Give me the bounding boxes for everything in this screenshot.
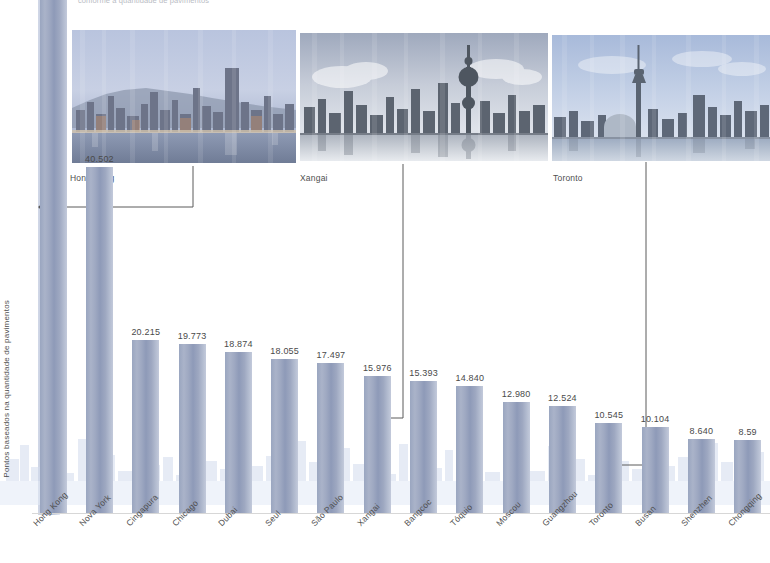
bar-fill xyxy=(410,381,437,513)
bar-chart: Pontos baseados na quantidade de pavimen… xyxy=(0,0,770,563)
bar-busan: 10.104 xyxy=(642,427,669,513)
bar-fill xyxy=(40,0,67,513)
bar-t-quio: 14.840 xyxy=(456,386,483,513)
bar-fill xyxy=(317,363,344,513)
y-axis-label: Pontos baseados na quantidade de pavimen… xyxy=(2,300,11,478)
bar-value-label: 12.980 xyxy=(502,389,531,399)
bar-value-label: 15.976 xyxy=(363,363,392,373)
bar-fill xyxy=(179,344,206,513)
bar-value-label: 8.59 xyxy=(738,427,756,437)
bar-dubai: 18.874 xyxy=(225,352,252,513)
bar-value-label: 40.502 xyxy=(85,154,114,164)
bar-fill xyxy=(456,386,483,513)
bar-fill xyxy=(642,427,669,513)
bar-value-label: 12.524 xyxy=(548,393,577,403)
bar-fill xyxy=(503,402,530,513)
bar-nova-york: 40.502 xyxy=(86,167,113,513)
bar-value-label: 17.497 xyxy=(317,350,346,360)
infographic-canvas: conforme a quantidade de pavimentos xyxy=(0,0,770,563)
bar-fill xyxy=(271,359,298,513)
bar-fill xyxy=(364,376,391,513)
x-tick-seul: Seul xyxy=(263,508,283,528)
bar-cingapura: 20.215 xyxy=(132,340,159,513)
bar-value-label: 8.640 xyxy=(690,426,714,436)
bar-s-o-paulo: 17.497 xyxy=(317,363,344,513)
bar-moscou: 12.980 xyxy=(503,402,530,513)
bar-value-label: 20.215 xyxy=(131,327,160,337)
bar-fill xyxy=(86,167,113,513)
bar-value-label: 18.874 xyxy=(224,339,253,349)
bar-hong-kong xyxy=(40,0,67,513)
bar-fill xyxy=(132,340,159,513)
bar-chicago: 19.773 xyxy=(179,344,206,513)
bar-value-label: 18.055 xyxy=(270,346,299,356)
x-tick-busan: Busan xyxy=(633,503,658,528)
bar-xangai: 15.976 xyxy=(364,376,391,513)
bar-value-label: 10.104 xyxy=(641,414,670,424)
bar-value-label: 10.545 xyxy=(594,410,623,420)
bar-bangcoc: 15.393 xyxy=(410,381,437,513)
bar-value-label: 14.840 xyxy=(455,373,484,383)
bar-value-label: 15.393 xyxy=(409,368,438,378)
x-tick-dubai: Dubai xyxy=(216,505,239,528)
bar-fill xyxy=(225,352,252,513)
bar-value-label: 19.773 xyxy=(178,331,207,341)
bar-seul: 18.055 xyxy=(271,359,298,513)
